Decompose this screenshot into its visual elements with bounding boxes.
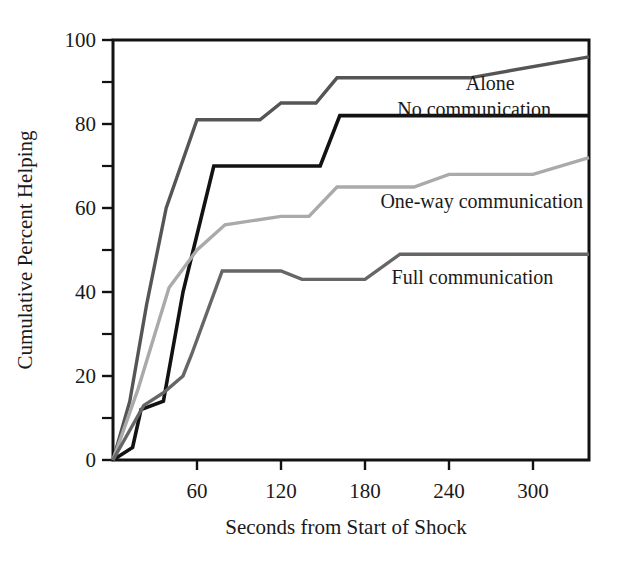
series-label-full-communication: Full communication <box>392 266 554 288</box>
y-tick-label-20: 20 <box>75 364 96 388</box>
y-tick-label-0: 0 <box>86 448 97 472</box>
series-line-no-communication <box>113 116 589 460</box>
y-axis-title: Cumulative Percent Helping <box>13 130 37 370</box>
y-tick-label-100: 100 <box>65 28 97 52</box>
x-tick-label-300: 300 <box>517 479 549 503</box>
x-tick-label-240: 240 <box>433 479 465 503</box>
y-tick-label-40: 40 <box>75 280 96 304</box>
y-tick-label-80: 80 <box>75 112 96 136</box>
x-tick-label-120: 120 <box>265 479 297 503</box>
series-label-no-communication: No communication <box>397 98 551 120</box>
chart-figure: 02040608010060120180240300Seconds from S… <box>0 0 619 562</box>
x-tick-label-180: 180 <box>349 479 381 503</box>
series-label-alone: Alone <box>466 72 515 94</box>
x-tick-label-60: 60 <box>187 479 208 503</box>
y-tick-label-60: 60 <box>75 196 96 220</box>
cumulative-percent-helping-chart: 02040608010060120180240300Seconds from S… <box>0 0 619 562</box>
series-label-one-way-communication: One-way communication <box>380 190 583 213</box>
x-axis-title: Seconds from Start of Shock <box>225 515 467 539</box>
